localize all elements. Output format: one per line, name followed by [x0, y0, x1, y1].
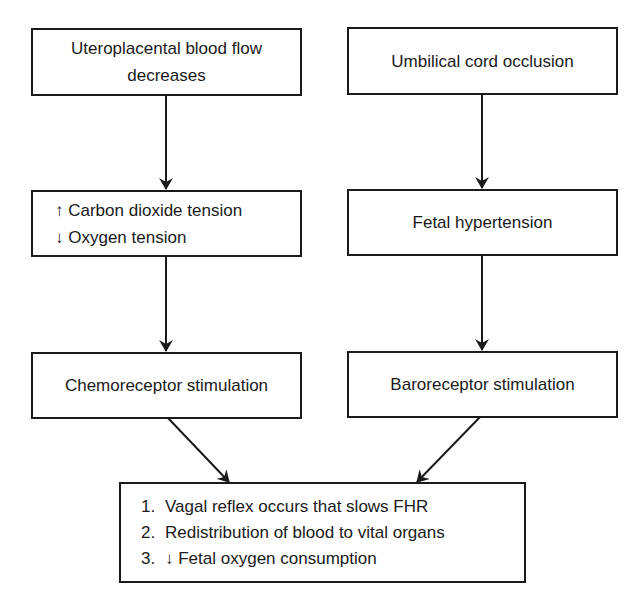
box-text-line: Umbilical cord occlusion: [391, 48, 573, 75]
outcome-item-text: ↓ Fetal oxygen consumption: [165, 546, 377, 572]
outcome-item-2: 2. Redistribution of blood to vital orga…: [141, 520, 445, 546]
box-fetal-hypertension: Fetal hypertension: [347, 189, 618, 256]
outcome-item-number: 3.: [141, 546, 165, 572]
box-uteroplacental-blood-flow: Uteroplacental blood flow decreases: [31, 28, 302, 96]
outcome-item-number: 1.: [141, 494, 165, 520]
box-text-line: Chemoreceptor stimulation: [65, 372, 268, 399]
arrow-diagonal-left: [168, 418, 229, 482]
box-text-line: ↑ Carbon dioxide tension: [55, 197, 242, 224]
box-text-line: decreases: [127, 62, 205, 89]
box-baroreceptor-stimulation: Baroreceptor stimulation: [347, 351, 618, 418]
outcome-item-1: 1. Vagal reflex occurs that slows FHR: [141, 494, 428, 520]
box-gas-tension: ↑ Carbon dioxide tension ↓ Oxygen tensio…: [31, 190, 302, 257]
box-umbilical-cord-occlusion: Umbilical cord occlusion: [347, 27, 618, 95]
box-outcome: 1. Vagal reflex occurs that slows FHR 2.…: [119, 482, 526, 583]
box-text-line: Uteroplacental blood flow: [71, 35, 262, 62]
outcome-item-text: Vagal reflex occurs that slows FHR: [165, 494, 428, 520]
outcome-item-number: 2.: [141, 520, 165, 546]
box-text-line: Baroreceptor stimulation: [390, 371, 574, 398]
flowchart-canvas: Uteroplacental blood flow decreases ↑ Ca…: [0, 0, 637, 604]
outcome-item-3: 3. ↓ Fetal oxygen consumption: [141, 546, 377, 572]
box-text-line: ↓ Oxygen tension: [55, 224, 186, 251]
arrow-diagonal-right: [417, 417, 480, 482]
box-text-line: Fetal hypertension: [413, 209, 553, 236]
outcome-item-text: Redistribution of blood to vital organs: [165, 520, 445, 546]
box-chemoreceptor-stimulation: Chemoreceptor stimulation: [31, 352, 302, 419]
